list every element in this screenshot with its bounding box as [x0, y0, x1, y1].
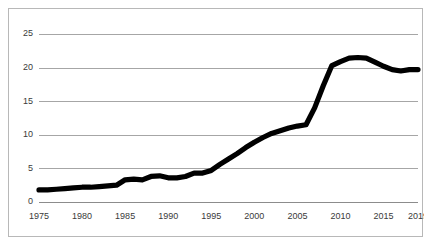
y-tick-label: 15 — [23, 96, 33, 106]
chart-plot-area: 0510152025 19751980198519901995200020052… — [9, 9, 424, 238]
x-tick-label: 2000 — [244, 211, 264, 221]
x-tick-label: 1975 — [29, 211, 49, 221]
x-tick-label: 1995 — [201, 211, 221, 221]
x-tick-label: 2005 — [287, 211, 307, 221]
y-tick-label: 5 — [28, 163, 33, 173]
data-series-line — [39, 58, 418, 190]
y-tick-label: 10 — [23, 129, 33, 139]
x-tick-label: 2015 — [374, 211, 394, 221]
line-chart-figure: 0510152025 19751980198519901995200020052… — [8, 8, 423, 237]
y-tick-label: 20 — [23, 62, 33, 72]
series-line-value — [39, 58, 418, 190]
x-axis-tick-labels: 1975198019851990199520002005201020152019 — [29, 211, 424, 221]
y-tick-label: 0 — [28, 196, 33, 206]
x-tick-label: 2019 — [408, 211, 424, 221]
x-tick-label: 1980 — [72, 211, 92, 221]
x-tick-label: 1985 — [115, 211, 135, 221]
x-tick-label: 2010 — [330, 211, 350, 221]
y-axis-tick-labels: 0510152025 — [23, 28, 33, 206]
x-tick-label: 1990 — [158, 211, 178, 221]
y-tick-label: 25 — [23, 28, 33, 38]
